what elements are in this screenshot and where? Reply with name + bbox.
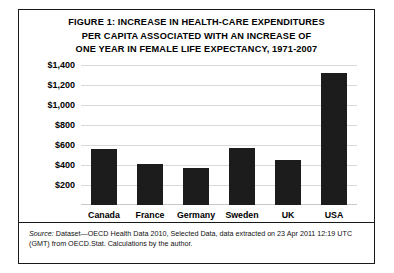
- y-axis-tick-label: $800: [55, 120, 75, 130]
- y-axis-tick-label: $400: [55, 160, 75, 170]
- chart-title-line-2: PER CAPITA ASSOCIATED WITH AN INCREASE O…: [19, 30, 374, 44]
- y-axis-tick-label: $1,000: [47, 100, 75, 110]
- bar-uk: [275, 160, 301, 206]
- bar-usa: [321, 73, 347, 205]
- bar-sweden: [229, 148, 255, 205]
- bar-series: CanadaFranceGermanySwedenUKUSA: [81, 65, 357, 205]
- y-axis-tick-label: $200: [55, 180, 75, 190]
- bar-slot: UK: [265, 65, 311, 205]
- y-axis-tick-label: $1,400: [47, 60, 75, 70]
- x-axis-category-label: Germany: [177, 210, 215, 220]
- source-label: Source:: [29, 229, 54, 238]
- chart-title-line-1: FIGURE 1: INCREASE IN HEALTH-CARE EXPEND…: [19, 16, 374, 30]
- bar-slot: USA: [311, 65, 357, 205]
- bar-slot: Germany: [173, 65, 219, 205]
- chart-title-line-3: ONE YEAR IN FEMALE LIFE EXPECTANCY, 1971…: [19, 43, 374, 57]
- bar-germany: [183, 168, 209, 206]
- chart-title: FIGURE 1: INCREASE IN HEALTH-CARE EXPEND…: [19, 16, 374, 57]
- bar-slot: Canada: [81, 65, 127, 205]
- x-axis-category-label: USA: [325, 210, 344, 220]
- x-axis-category-label: Canada: [88, 210, 120, 220]
- x-axis-category-label: Sweden: [225, 210, 258, 220]
- source-text: Dataset—OECD Health Data 2010, Selected …: [29, 229, 352, 248]
- bar-france: [137, 164, 163, 206]
- figure-frame: FIGURE 1: INCREASE IN HEALTH-CARE EXPEND…: [18, 9, 375, 264]
- x-axis-category-label: France: [136, 210, 165, 220]
- x-axis-category-label: UK: [282, 210, 295, 220]
- bar-slot: France: [127, 65, 173, 205]
- y-axis-tick-label: $600: [55, 140, 75, 150]
- bar-canada: [91, 149, 117, 205]
- plot-area: $1,400$1,200$1,000$800$600$400$200 Canad…: [81, 65, 357, 205]
- figure-source-note: Source: Dataset—OECD Health Data 2010, S…: [29, 229, 366, 250]
- y-axis-tick-label: $1,200: [47, 80, 75, 90]
- bar-slot: Sweden: [219, 65, 265, 205]
- footnote-divider: [19, 222, 374, 223]
